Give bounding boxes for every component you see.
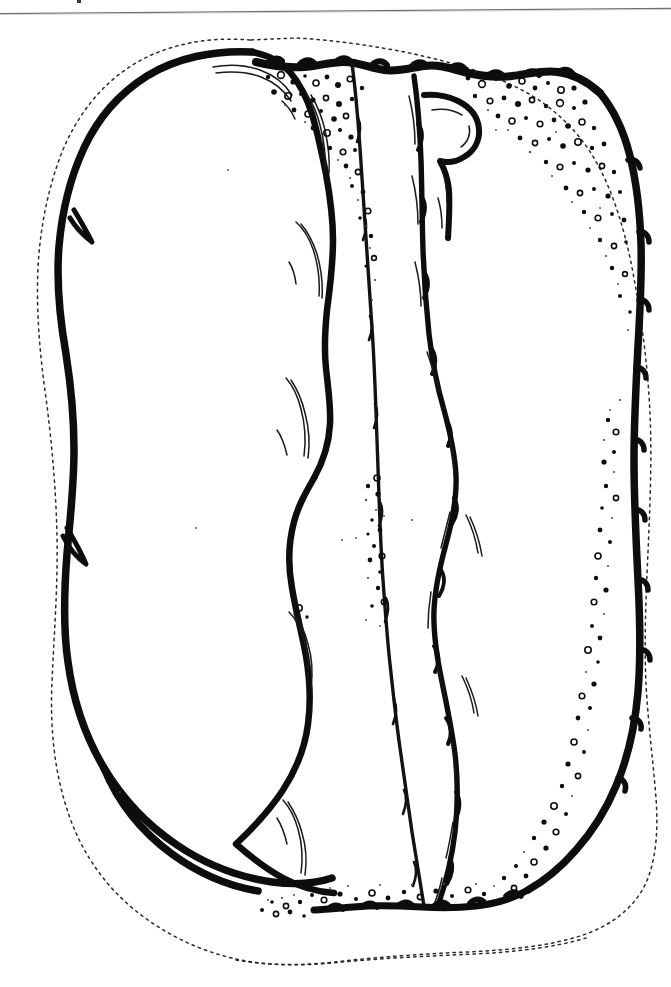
figure-illustration [0,0,671,987]
vesicle-field-top [266,72,377,301]
ridge-a-wobble [357,118,416,886]
left-lobe-outline [58,52,332,884]
dotted-outer-contour [37,38,656,965]
left-lobe-interior-hatching [213,65,329,875]
right-panel-hatching [462,515,482,716]
artifact-line-drawing [0,0,671,987]
left-lobe-right-flank-lower [236,478,334,893]
hook-feature [424,95,479,238]
dotted-bottom-contour [236,938,586,965]
left-lobe-notch-upper [70,210,92,242]
vesicle [305,615,308,618]
vesicle-field-top-right [466,76,632,331]
page-canvas [0,0,671,987]
